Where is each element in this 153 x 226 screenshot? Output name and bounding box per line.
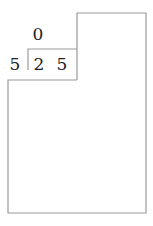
row-digit-3: 5 bbox=[57, 56, 68, 73]
top-digit: 0 bbox=[33, 26, 44, 43]
row-digit-1: 5 bbox=[10, 56, 21, 73]
row-digit-2: 2 bbox=[34, 56, 45, 73]
outer-shape-outline bbox=[8, 13, 146, 213]
diagram-lines bbox=[0, 0, 153, 226]
